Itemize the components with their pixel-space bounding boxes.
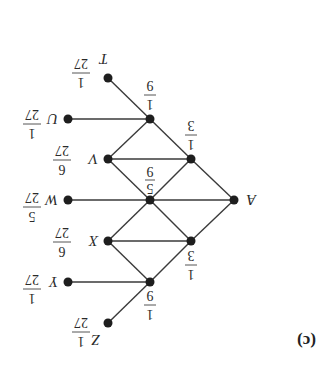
svg-text:27: 27 — [55, 225, 69, 240]
svg-text:9: 9 — [147, 288, 154, 303]
svg-text:3: 3 — [188, 248, 195, 263]
svg-text:27: 27 — [25, 272, 39, 287]
svg-text:27: 27 — [25, 107, 39, 122]
fraction-u: 1 27 — [23, 107, 41, 141]
svg-text:1: 1 — [188, 137, 195, 152]
fraction-bottom-ninth: 1 9 — [144, 78, 156, 112]
probability-tree-diagram: A Z Y X W V U T 1 27 1 27 6 27 5 27 6 — [0, 0, 326, 372]
svg-text:1: 1 — [147, 307, 154, 322]
svg-text:1: 1 — [78, 334, 85, 349]
fraction-center: 5 9 — [145, 164, 155, 196]
node-top-ninth — [146, 278, 155, 287]
panel-label: (c) — [297, 332, 316, 351]
label-a: A — [246, 192, 257, 208]
svg-text:6: 6 — [59, 162, 66, 177]
svg-text:27: 27 — [25, 190, 39, 205]
fraction-top-ninth: 1 9 — [144, 288, 156, 322]
fraction-t: 1 27 — [72, 56, 90, 90]
fraction-y: 1 27 — [23, 272, 41, 306]
svg-text:5: 5 — [29, 209, 36, 224]
fraction-lower-third: 1 3 — [185, 118, 197, 152]
node-y — [64, 278, 73, 287]
fraction-w: 5 27 — [23, 190, 41, 224]
svg-text:1: 1 — [78, 75, 85, 90]
label-v: V — [87, 151, 98, 167]
svg-text:1: 1 — [29, 126, 36, 141]
node-a — [230, 196, 239, 205]
label-t: T — [98, 51, 108, 67]
label-w: W — [44, 192, 58, 208]
label-z: Z — [91, 332, 100, 348]
fraction-upper-third: 1 3 — [185, 248, 197, 282]
node-v — [104, 155, 113, 164]
svg-text:5: 5 — [147, 181, 154, 196]
svg-text:9: 9 — [147, 78, 154, 93]
svg-text:9: 9 — [147, 164, 154, 179]
fraction-x: 6 27 — [53, 225, 71, 259]
svg-text:27: 27 — [55, 143, 69, 158]
node-w — [64, 196, 73, 205]
svg-text:1: 1 — [147, 97, 154, 112]
label-u: U — [46, 111, 58, 127]
label-x: X — [88, 233, 99, 249]
fraction-z: 1 27 — [72, 315, 90, 349]
node-lower-third — [187, 155, 196, 164]
node-t — [104, 74, 113, 83]
fraction-v: 6 27 — [53, 143, 71, 177]
svg-text:27: 27 — [74, 56, 88, 71]
node-upper-third — [187, 237, 196, 246]
node-x — [104, 237, 113, 246]
node-z — [104, 319, 113, 328]
svg-text:3: 3 — [188, 118, 195, 133]
node-bottom-ninth — [146, 115, 155, 124]
svg-text:1: 1 — [188, 267, 195, 282]
label-y: Y — [48, 274, 58, 290]
node-u — [64, 115, 73, 124]
svg-text:1: 1 — [29, 291, 36, 306]
svg-text:27: 27 — [74, 315, 88, 330]
svg-text:6: 6 — [59, 244, 66, 259]
